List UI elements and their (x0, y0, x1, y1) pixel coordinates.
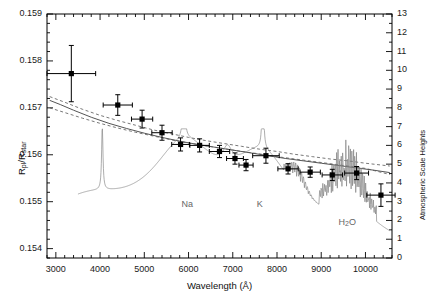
y2-tick-label: 0 (397, 252, 402, 262)
data-point (47, 45, 96, 101)
y2-tick-label: 6 (397, 139, 402, 149)
transmission-spectrum-figure: 0.1540.1550.1560.1570.1580.159 012345678… (0, 0, 428, 302)
y2-tick-label: 12 (397, 27, 407, 37)
potassium-feature-label: K (257, 199, 263, 209)
y-axis-title-text: Rpl/Rstar (16, 141, 27, 175)
y2-tick-label: 2 (397, 214, 402, 224)
y2-tick-label: 5 (397, 158, 402, 168)
data-point (253, 148, 280, 163)
model-spectrum-trace (78, 129, 390, 231)
y2-tick-label: 7 (397, 121, 402, 131)
y2-tick-label: 4 (397, 177, 402, 187)
y2-tick-label: 8 (397, 102, 402, 112)
data-points-with-errorbars (47, 45, 395, 206)
data-point (152, 125, 172, 140)
data-point (103, 95, 132, 116)
sodium-feature-label: Na (182, 199, 194, 209)
x-axis-title: Wavelength (Å) (165, 280, 275, 291)
y2-tick-label: 13 (397, 8, 407, 18)
y2-tick-label: 1 (397, 233, 402, 243)
y2-tick-label: 3 (397, 196, 402, 206)
y2-tick-label: 9 (397, 83, 402, 93)
data-point (227, 153, 244, 164)
y-tick-label: 0.159 (2, 8, 42, 18)
y2-tick-label: 10 (397, 64, 407, 74)
y-tick-label: 0.155 (2, 196, 42, 206)
model-curves (50, 97, 390, 175)
y2-axis-title: Atmospheric Scale Heights (418, 130, 427, 220)
data-point (300, 167, 320, 177)
data-point (239, 159, 253, 170)
y2-tick-label: 11 (397, 46, 406, 56)
plot-canvas (0, 0, 428, 302)
data-point (367, 184, 395, 207)
x-tick-label: 10000 (335, 264, 395, 274)
water-feature-label: H2O (339, 217, 356, 227)
y-tick-label: 0.157 (2, 102, 42, 112)
y-tick-label: 0.154 (2, 243, 42, 253)
y-axis-title: Rpl/Rstar (16, 141, 27, 175)
y-tick-label: 0.158 (2, 55, 42, 65)
